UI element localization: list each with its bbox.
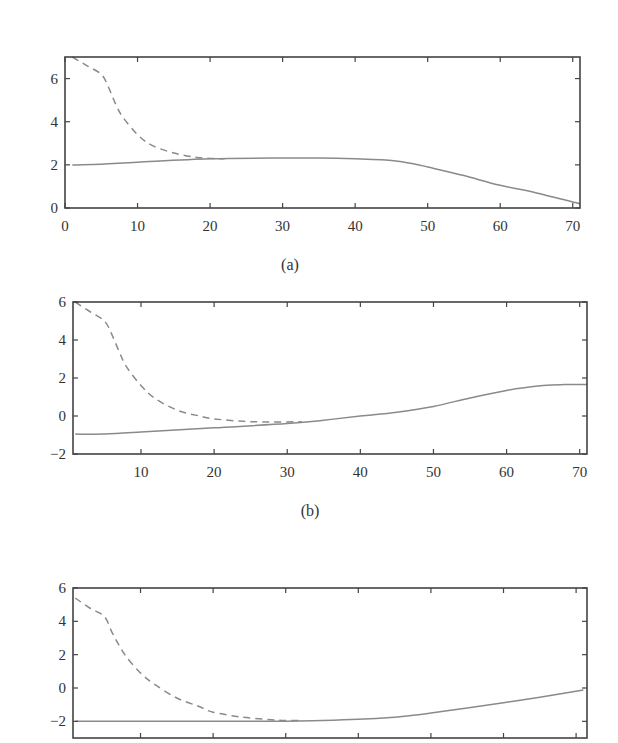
- figure: 0102030405060700246(a) 10203040506070−20…: [0, 0, 618, 743]
- x-tick-label: 70: [565, 218, 580, 234]
- y-tick-label: 0: [59, 408, 67, 424]
- x-tick-label: 30: [275, 218, 290, 234]
- y-tick-label: 6: [59, 580, 67, 596]
- series-true-line: [72, 158, 580, 204]
- y-tick-label: −2: [50, 713, 66, 729]
- x-tick-label: 10: [133, 464, 148, 480]
- x-tick-label: 20: [203, 218, 218, 234]
- x-tick-label: 30: [280, 464, 295, 480]
- x-tick-label: 60: [499, 464, 514, 480]
- y-tick-label: 6: [59, 294, 67, 310]
- y-tick-label: 4: [59, 332, 67, 348]
- series-estimate-line: [75, 302, 302, 422]
- y-tick-label: 6: [51, 71, 59, 87]
- y-tick-label: 2: [59, 370, 67, 386]
- x-tick-label: 50: [420, 218, 435, 234]
- subplot-b: 10203040506070−20246(b): [50, 294, 587, 520]
- x-tick-label: 60: [493, 218, 508, 234]
- subplot-caption: (a): [281, 256, 299, 274]
- series-true-line: [75, 385, 587, 435]
- y-tick-label: 0: [51, 200, 59, 216]
- subplot-a: 0102030405060700246(a): [51, 57, 581, 274]
- subplot-c: −20246: [50, 580, 587, 738]
- x-tick-label: 40: [353, 464, 368, 480]
- y-tick-label: 2: [51, 157, 59, 173]
- x-tick-label: 10: [130, 218, 145, 234]
- y-tick-label: 2: [59, 647, 67, 663]
- x-tick-label: 40: [348, 218, 363, 234]
- axes-frame: [73, 588, 587, 738]
- x-tick-label: 50: [426, 464, 441, 480]
- y-tick-label: 0: [59, 680, 67, 696]
- series-estimate-line: [72, 57, 224, 159]
- y-tick-label: 4: [51, 114, 59, 130]
- x-tick-label: 20: [207, 464, 222, 480]
- series-estimate-line: [75, 598, 300, 721]
- series-true-line: [75, 690, 583, 721]
- subplot-caption: (b): [301, 502, 320, 520]
- y-tick-label: 4: [59, 613, 67, 629]
- y-tick-label: −2: [50, 446, 66, 462]
- x-tick-label: 70: [572, 464, 587, 480]
- x-tick-label: 0: [61, 218, 69, 234]
